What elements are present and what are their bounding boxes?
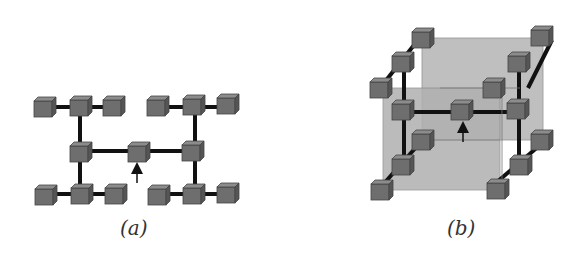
- node-cube: [392, 155, 414, 175]
- node-cube: [35, 185, 57, 205]
- node-cube: [103, 96, 125, 116]
- node-cube: [183, 184, 205, 204]
- node-cube: [371, 180, 393, 200]
- panel-b-label: (b): [447, 216, 475, 240]
- center-node-cube: [128, 142, 150, 162]
- node-cube: [34, 97, 56, 117]
- node-cube: [508, 52, 530, 72]
- node-cube: [71, 184, 93, 204]
- node-cube: [217, 94, 239, 114]
- node-cube: [483, 78, 505, 98]
- node-cube: [531, 130, 553, 150]
- node-cube: [412, 28, 434, 48]
- node-cube: [148, 185, 170, 205]
- panel-a-label: (a): [120, 216, 148, 240]
- node-cube: [392, 100, 414, 120]
- node-cube: [70, 142, 92, 162]
- panel-b: [370, 26, 553, 200]
- figure-canvas: [0, 0, 586, 259]
- node-cube: [507, 99, 529, 119]
- node-cube: [412, 130, 434, 150]
- panel-a: [34, 94, 239, 205]
- center-node-cube: [451, 100, 473, 120]
- node-cube: [105, 184, 127, 204]
- node-cube: [70, 96, 92, 116]
- node-cube: [510, 155, 532, 175]
- node-cube: [183, 95, 205, 115]
- node-cube: [217, 183, 239, 203]
- node-cube: [147, 96, 169, 116]
- node-cube: [487, 179, 509, 199]
- node-cube: [392, 52, 414, 72]
- node-cube: [531, 26, 553, 46]
- node-cube: [182, 141, 204, 161]
- node-cube: [370, 78, 392, 98]
